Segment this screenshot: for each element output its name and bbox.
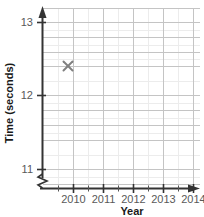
x-axis-title: Year — [120, 205, 144, 217]
plot-background — [43, 8, 200, 188]
x-tick-label-2014: 2014 — [181, 193, 204, 205]
x-tick-label-2013: 2013 — [151, 193, 175, 205]
x-tick-label-2010: 2010 — [61, 193, 85, 205]
x-tick-label-2012: 2012 — [121, 193, 145, 205]
chart-canvas: 13 12 11 2010 2011 2012 2013 2014 Year T… — [0, 0, 204, 217]
scatter-plot-figure: 13 12 11 2010 2011 2012 2013 2014 Year T… — [0, 0, 204, 217]
y-tick-label-12: 12 — [21, 89, 33, 101]
y-tick-label-13: 13 — [21, 16, 33, 28]
x-tick-label-2011: 2011 — [92, 193, 116, 205]
y-tick-label-11: 11 — [22, 163, 33, 175]
y-axis-title: Time (seconds) — [3, 62, 15, 143]
